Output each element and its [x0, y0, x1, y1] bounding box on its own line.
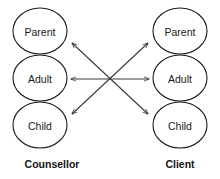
ta-diagram-canvas: Parent Adult Child Parent Adult	[0, 0, 220, 179]
client-adult-label: Adult	[168, 73, 192, 85]
counsellor-child-label: Child	[28, 120, 52, 132]
client-party-label: Client	[165, 158, 195, 170]
transaction-arrows	[71, 43, 149, 114]
client-child-label: Child	[168, 120, 192, 132]
ego-state-counsellor-parent[interactable]: Parent	[13, 8, 67, 54]
ego-state-client-parent[interactable]: Parent	[153, 8, 207, 54]
ego-state-client-child[interactable]: Child	[153, 102, 207, 148]
counsellor-party-label: Counsellor	[25, 158, 80, 170]
counsellor-adult-label: Adult	[28, 73, 52, 85]
ego-state-client-adult[interactable]: Adult	[153, 55, 207, 101]
client-parent-label: Parent	[165, 26, 196, 38]
client-group: Parent Adult Child	[153, 8, 207, 148]
counsellor-group: Parent Adult Child	[13, 8, 67, 148]
transactional-analysis-diagram: Parent Adult Child Parent Adult	[0, 0, 220, 179]
counsellor-parent-label: Parent	[25, 26, 56, 38]
ego-state-counsellor-adult[interactable]: Adult	[13, 55, 67, 101]
ego-state-counsellor-child[interactable]: Child	[13, 102, 67, 148]
